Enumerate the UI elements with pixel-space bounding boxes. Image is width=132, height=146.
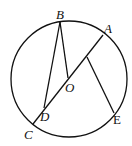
label-a: A [103,21,112,36]
label-c: C [24,127,33,142]
segment-e [87,57,114,113]
label-d: D [39,109,50,124]
segment-bo [60,22,68,78]
label-e: E [113,112,121,127]
label-b: B [56,7,64,22]
label-o: O [65,80,75,95]
segment-bd [44,22,60,108]
geometry-diagram: B A O D C E [0,0,132,146]
